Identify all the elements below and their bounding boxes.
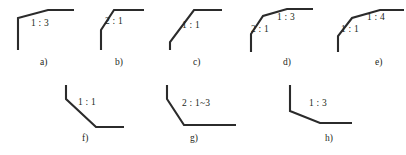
ratio-label-c-1: 1 : 1 xyxy=(182,21,200,31)
figure-caption-d: d) xyxy=(283,58,291,68)
ratio-label-d-1: 1 : 3 xyxy=(277,13,295,23)
figure-caption-f: f) xyxy=(82,134,88,144)
figure-f xyxy=(60,83,150,133)
slope-polyline-f xyxy=(60,83,150,133)
ratio-label-d-2: 2 : 1 xyxy=(251,25,269,35)
figure-caption-b: b) xyxy=(115,58,123,68)
figure-a xyxy=(10,6,100,56)
ratio-label-e-2: 1 : 1 xyxy=(341,25,359,35)
figure-sheet: 1 : 3a)2 : 1b)1 : 1c)1 : 32 : 1d)1 : 41 … xyxy=(0,0,406,155)
figure-h xyxy=(286,83,376,133)
ratio-label-e-1: 1 : 4 xyxy=(367,13,385,23)
figure-caption-e: e) xyxy=(375,58,382,68)
ratio-label-f-1: 1 : 1 xyxy=(78,98,96,108)
slope-path-a xyxy=(18,10,74,50)
ratio-label-a-1: 1 : 3 xyxy=(31,19,49,29)
ratio-label-g-1: 2 : 1~3 xyxy=(182,99,210,109)
ratio-label-b-1: 2 : 1 xyxy=(105,17,123,27)
ratio-label-h-1: 1 : 3 xyxy=(309,99,327,109)
figure-caption-h: h) xyxy=(325,134,333,144)
slope-polyline-a xyxy=(10,6,100,56)
slope-polyline-h xyxy=(286,83,376,133)
figure-caption-g: g) xyxy=(190,134,198,144)
figure-caption-c: c) xyxy=(193,58,200,68)
figure-caption-a: a) xyxy=(40,58,47,68)
